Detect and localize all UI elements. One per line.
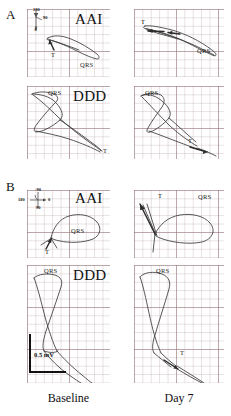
caption-baseline: Baseline [27,392,110,404]
qrs-label: QRS [145,90,158,97]
vcg-loop-trace [134,265,224,383]
compass-label-left: 180 [18,198,25,202]
compass-label-bottom: 0 [35,28,37,32]
compass-label-bottom: 90 [36,206,40,210]
qrs-label: QRS [71,228,84,235]
vcg-loop-trace [134,86,224,159]
compass-label-top: 180 [33,8,40,12]
panel-b-aai-day7: T QRS [134,190,224,258]
t-label: T [51,52,55,59]
panel-a-aai-day7: T QRS [134,9,224,77]
scale-bar-label: 0.5 mV [34,352,54,359]
compass-label-right: 90 [43,16,47,20]
compass-label-right: 0 [48,198,50,202]
mode-label-aai-a: AAI [75,12,103,27]
vcg-loop-trace [134,9,224,77]
qrs-label: QRS [44,268,57,275]
qrs-label: QRS [198,194,211,201]
compass-b: -90 180 0 90 [17,188,59,212]
caption-day7: Day 7 [134,392,224,404]
t-label: T [188,138,192,145]
qrs-label: QRS [156,268,169,275]
mode-label-ddd-a: DDD [73,89,106,104]
scale-bar-vertical [29,334,31,373]
section-letter-b: B [6,180,15,193]
t-label: T [180,350,184,357]
qrs-label: QRS [80,62,93,69]
qrs-label: QRS [197,48,210,55]
compass-axes-icon [28,8,54,34]
mode-label-ddd-b: DDD [73,268,106,283]
mode-label-aai-b: AAI [75,191,103,206]
section-letter-a: A [6,8,15,21]
t-label: T [45,249,49,256]
t-label: T [141,19,145,26]
vcg-figure: A QRS T 180 90 0 AAI [0,0,231,416]
compass-label-top: -90 [35,188,41,192]
t-label: T [103,148,107,155]
t-label: T [158,193,162,200]
scale-bar: 0.5 mV [29,334,66,373]
compass-a: 180 90 0 [28,8,54,34]
qrs-label: QRS [48,90,61,97]
panel-b-ddd-day7: QRS T [134,265,224,383]
scale-bar-horizontal [29,371,66,373]
panel-a-ddd-day7: QRS T [134,86,224,159]
